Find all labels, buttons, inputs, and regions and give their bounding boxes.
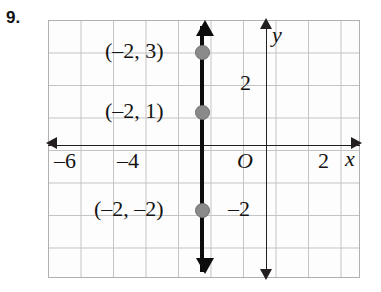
graph-figure: 9. (–2, 3) (–2, 1) (–2, –2) –6 –4 2 2 –2…	[0, 0, 381, 292]
y-axis-down-arrow-icon	[260, 269, 272, 280]
exercise-number: 9.	[6, 8, 20, 28]
point-label: (–2, 1)	[105, 98, 164, 124]
x-axis	[48, 145, 360, 146]
x-tick-label: –4	[117, 148, 139, 174]
y-tick-label: 2	[240, 70, 251, 96]
x-tick-label: –6	[54, 148, 76, 174]
point-label: (–2, –2)	[94, 196, 164, 222]
y-axis-label: y	[272, 22, 282, 48]
graphed-line	[200, 26, 204, 272]
plotted-point	[195, 45, 210, 60]
plotted-point	[195, 105, 210, 120]
coordinate-plane: (–2, 3) (–2, 1) (–2, –2) –6 –4 2 2 –2 O …	[48, 20, 360, 278]
point-label: (–2, 3)	[105, 38, 164, 64]
plotted-point	[195, 203, 210, 218]
y-tick-label: –2	[228, 196, 250, 222]
x-axis-label: x	[345, 146, 355, 172]
x-tick-label: 2	[318, 148, 329, 174]
graphed-line-up-arrow-icon	[196, 20, 214, 36]
graphed-line-down-arrow-icon	[196, 258, 214, 274]
y-axis-up-arrow-icon	[260, 18, 272, 29]
y-axis	[266, 20, 267, 278]
origin-label: O	[237, 148, 253, 174]
